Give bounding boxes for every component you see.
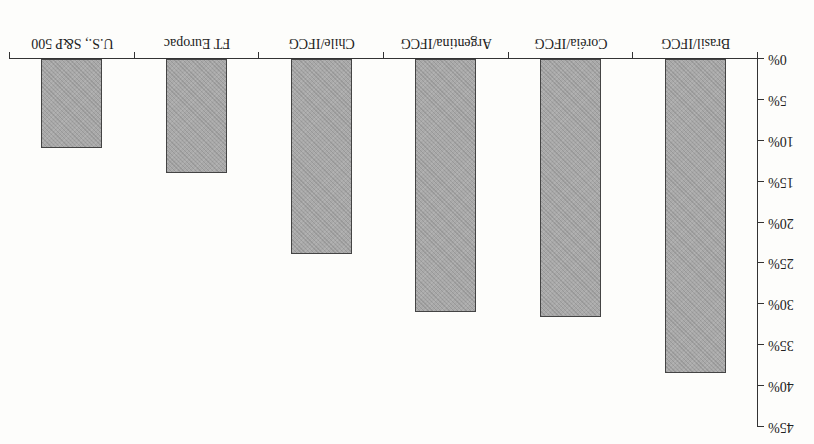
y-tick	[757, 99, 764, 100]
y-tick	[757, 426, 764, 427]
x-category-label: Chile/IFCG	[260, 35, 384, 51]
y-tick-label: 20%	[768, 216, 812, 230]
x-axis-line	[10, 58, 758, 59]
y-tick-label: 30%	[768, 297, 812, 311]
y-tick	[757, 262, 764, 263]
x-tick	[9, 52, 10, 59]
y-tick	[757, 58, 764, 59]
y-tick-label: 5%	[768, 93, 812, 107]
y-axis-line	[757, 59, 758, 427]
bar	[41, 59, 102, 148]
rotated-chart-page: 0%5%10%15%20%25%30%35%40%45% Brasil/IFCG…	[0, 0, 814, 444]
y-tick-label: 10%	[768, 134, 812, 148]
x-tick	[632, 52, 633, 59]
y-tick-label: 45%	[768, 420, 812, 434]
x-category-label: U.S., S&P 500	[10, 35, 134, 51]
bar	[166, 59, 227, 173]
x-category-label: Brasil/IFCG	[634, 35, 758, 51]
bar	[665, 59, 726, 373]
x-category-label: Argentina/IFCG	[384, 35, 508, 51]
bar	[415, 59, 476, 312]
y-tick	[757, 303, 764, 304]
x-tick	[383, 52, 384, 59]
y-tick-label: 40%	[768, 379, 812, 393]
bar-chart: 0%5%10%15%20%25%30%35%40%45% Brasil/IFCG…	[0, 0, 814, 444]
x-tick	[258, 52, 259, 59]
x-tick	[508, 52, 509, 59]
bar	[291, 59, 352, 254]
x-tick	[757, 52, 758, 59]
y-tick	[757, 385, 764, 386]
bar	[540, 59, 601, 317]
x-tick	[134, 52, 135, 59]
y-tick-label: 25%	[768, 256, 812, 270]
x-category-label: FT Europac	[135, 35, 259, 51]
y-tick	[757, 181, 764, 182]
y-tick	[757, 222, 764, 223]
y-tick-label: 0%	[768, 52, 812, 66]
y-tick-label: 35%	[768, 338, 812, 352]
y-tick-label: 15%	[768, 175, 812, 189]
y-tick	[757, 344, 764, 345]
x-category-label: Coréia/IFCG	[509, 35, 633, 51]
y-tick	[757, 140, 764, 141]
